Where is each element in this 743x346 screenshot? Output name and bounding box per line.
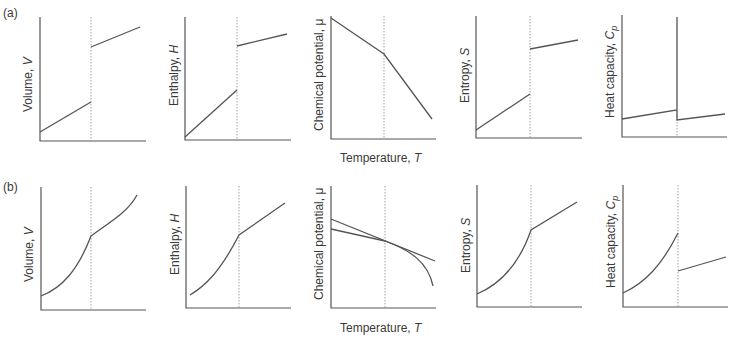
panel-a-enthalpy: Enthalpy, H <box>167 17 291 140</box>
curve <box>477 202 577 294</box>
panel-b-chemical-potential: Chemical potential, μ Temperature, T <box>312 186 436 335</box>
y-axis-label: Heat capacity, Cp <box>603 26 619 118</box>
y-axis-label: Volume, V <box>21 56 35 112</box>
phase-transition-figure: (a) Volume, V Enthalpy, H Chemical poten… <box>0 0 743 346</box>
curve-high <box>530 40 578 49</box>
row-label-b: (b) <box>3 180 18 194</box>
y-axis-label: Chemical potential, μ <box>312 188 326 300</box>
x-axis-label: Temperature, T <box>340 151 423 165</box>
curve-high <box>91 27 140 47</box>
curve-high <box>678 257 726 271</box>
axes <box>186 186 291 308</box>
y-axis-label: Heat capacity, Cp <box>604 196 620 288</box>
x-axis-label: Temperature, T <box>340 321 423 335</box>
axes <box>477 185 582 307</box>
panel-b-volume: Volume, V <box>22 187 146 310</box>
y-axis-label: Enthalpy, H <box>168 214 182 275</box>
axes <box>331 186 436 308</box>
curve-high <box>237 34 287 46</box>
curve-low <box>476 94 530 130</box>
y-axis-label: Volume, V <box>22 226 36 282</box>
curve <box>331 18 432 119</box>
y-axis-label: Entropy, S <box>459 218 473 273</box>
panel-a-entropy: Entropy, S <box>458 16 582 138</box>
curve <box>41 195 137 296</box>
curve <box>190 203 285 295</box>
curve-with-spike <box>622 17 725 120</box>
axes <box>185 17 291 140</box>
panel-b-enthalpy: Enthalpy, H <box>168 186 291 308</box>
panel-b-entropy: Entropy, S <box>459 185 582 307</box>
curve-low <box>185 90 237 137</box>
axes <box>623 185 728 307</box>
y-axis-label: Chemical potential, μ <box>312 19 326 131</box>
y-axis-label: Entropy, S <box>458 48 472 103</box>
panel-b-heat-capacity: Heat capacity, Cp <box>604 185 728 307</box>
axes <box>622 15 727 137</box>
y-axis-label: Enthalpy, H <box>167 45 181 106</box>
panel-a-volume: Volume, V <box>21 17 146 141</box>
curve-low <box>623 233 678 293</box>
panel-a-chemical-potential: Chemical potential, μ Temperature, T <box>312 16 436 165</box>
panel-a-heat-capacity: Heat capacity, Cp <box>603 15 727 137</box>
curve <box>331 229 433 286</box>
axes <box>331 16 436 139</box>
curve-low <box>40 102 91 132</box>
row-label-a: (a) <box>3 6 18 20</box>
